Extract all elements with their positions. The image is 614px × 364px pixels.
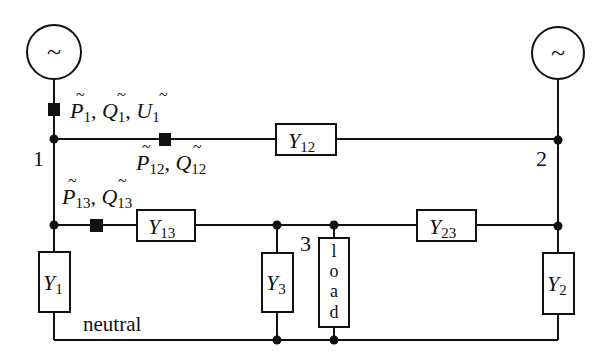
bus-2-label: 2 — [536, 146, 547, 171]
tilde-mark: ~ — [159, 86, 168, 103]
measurement-point-13 — [90, 219, 103, 232]
generator-2: ~ — [532, 27, 584, 79]
junction-node — [554, 222, 563, 231]
tilde-mark: ~ — [193, 138, 202, 155]
admittance-y1: Y1 — [39, 252, 70, 312]
measurement-label-13: P13, Q13 ~ ~ — [61, 172, 132, 211]
bus-3-node — [273, 221, 282, 230]
tilde-mark: ~ — [142, 138, 151, 155]
admittance-y12: Y12 — [276, 124, 336, 155]
bus-2-node — [554, 136, 563, 145]
tilde-mark: ~ — [76, 86, 85, 103]
neutral-node — [273, 336, 282, 345]
load-label-letter: d — [330, 302, 339, 322]
load-label-letter: l — [331, 241, 336, 261]
tilde-mark: ~ — [118, 172, 127, 189]
ac-source-icon: ~ — [47, 37, 61, 66]
circuit-diagram: ~ ~ Y12 Y13 Y23 Y1 Y3 Y2 — [0, 0, 614, 364]
neutral-label: neutral — [83, 312, 141, 336]
admittance-y23: Y23 — [417, 210, 476, 241]
tilde-mark: ~ — [68, 172, 77, 189]
generator-1: ~ — [27, 25, 81, 79]
bus-1-node — [50, 135, 59, 144]
neutral-node — [330, 336, 339, 345]
measurement-label-1: P1, Q1, U1 ~ ~ ~ — [69, 86, 168, 125]
load-label-letter: o — [330, 261, 339, 281]
bus-3-label: 3 — [300, 231, 311, 256]
admittance-y13: Y13 — [137, 210, 195, 241]
tilde-mark: ~ — [117, 86, 126, 103]
load-element: l o a d — [319, 238, 349, 327]
measurement-point-12 — [159, 133, 171, 146]
load-label-letter: a — [330, 281, 338, 301]
measurement-point-1 — [48, 103, 60, 116]
junction-node — [50, 221, 59, 230]
admittance-y2: Y2 — [543, 253, 574, 314]
bus-1-label: 1 — [33, 146, 44, 171]
admittance-y3: Y3 — [262, 253, 293, 312]
ac-source-icon: ~ — [551, 38, 565, 67]
load-top-node — [330, 221, 339, 230]
